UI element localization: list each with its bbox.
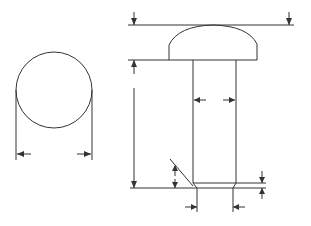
arrow-down-icon xyxy=(131,18,137,25)
head-top-dimension xyxy=(131,12,292,25)
end-chamfer-depth-dimension xyxy=(259,171,265,199)
diameter-dimension xyxy=(17,151,91,157)
rivet-drawing xyxy=(0,0,311,226)
shank-diameter-dimension xyxy=(194,97,235,103)
arrow-left-icon xyxy=(17,151,24,157)
arrow-left-icon xyxy=(194,97,200,103)
chamfer-height-dimension xyxy=(170,159,193,188)
chamfer-width-dimension xyxy=(185,188,245,212)
side-view xyxy=(128,12,294,212)
arrow-up-icon xyxy=(131,60,137,67)
arrow-down-icon xyxy=(131,181,137,188)
arrow-down-icon xyxy=(259,177,265,183)
arrow-down-icon xyxy=(286,18,292,25)
arrow-right-icon xyxy=(84,151,91,157)
arrow-up-icon xyxy=(259,188,265,194)
arrow-right-icon xyxy=(229,97,235,103)
rivet-shank xyxy=(193,60,236,188)
end-view xyxy=(16,52,92,160)
arrow-right-icon xyxy=(191,204,197,210)
shank-length-dimension xyxy=(131,60,137,188)
arrow-down-icon xyxy=(172,182,178,188)
rivet-head xyxy=(169,25,257,60)
arrow-left-icon xyxy=(233,204,239,210)
rivet-end-circle xyxy=(16,52,92,128)
